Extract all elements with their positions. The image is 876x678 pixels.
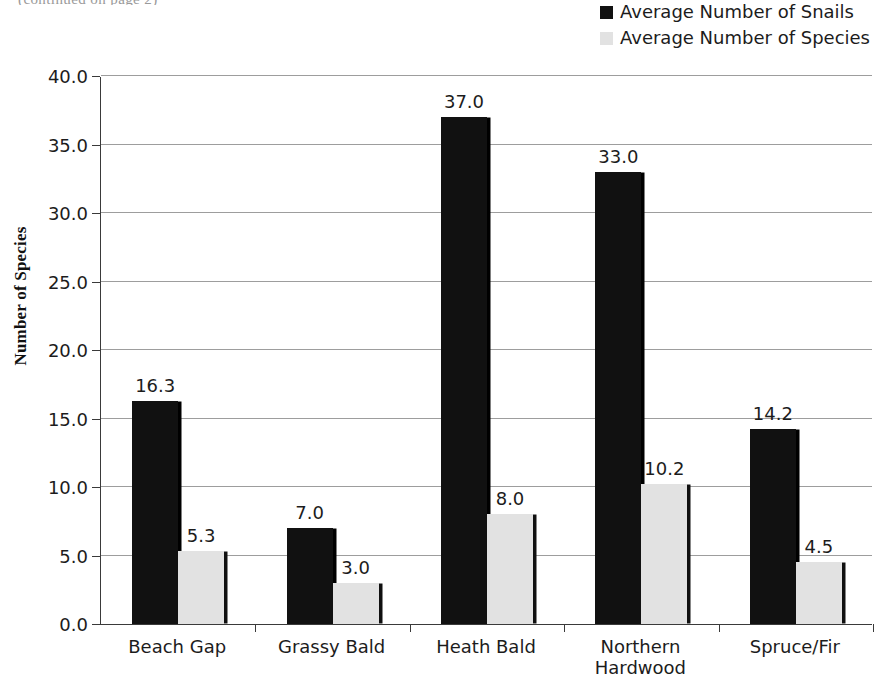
x-tick-mark — [564, 624, 565, 632]
y-tick-mark — [92, 419, 100, 420]
clipped-header-text: (continued on page 2) — [18, 0, 238, 5]
x-category-label: Beach Gap — [128, 636, 226, 657]
bar-value-label: 3.0 — [341, 558, 370, 578]
bar-value-label: 10.2 — [644, 459, 684, 479]
legend-swatch-species-icon — [600, 32, 613, 45]
bar-value-label: 14.2 — [753, 404, 793, 424]
bar-average-number-of-snails-2: 37.0 — [441, 117, 487, 624]
y-tick-mark — [92, 282, 100, 283]
bar-average-number-of-snails-1: 7.0 — [287, 528, 333, 624]
chart-legend: Average Number of Snails Average Number … — [600, 2, 870, 48]
legend-swatch-snails-icon — [600, 6, 613, 19]
legend-item-species: Average Number of Species — [600, 28, 870, 48]
bar-value-label: 33.0 — [598, 147, 638, 167]
bar-average-number-of-species-3: 10.2 — [641, 484, 687, 624]
bar-value-label: 8.0 — [496, 489, 525, 509]
gridline — [101, 75, 872, 76]
bar-average-number-of-species-1: 3.0 — [333, 583, 379, 624]
y-axis-labels: 0.05.010.015.020.025.030.035.040.0 — [0, 77, 100, 625]
y-tick-label: 10.0 — [48, 479, 88, 497]
y-tick-mark — [92, 487, 100, 488]
y-tick-mark — [92, 556, 100, 557]
y-tick-mark — [92, 624, 100, 625]
x-tick-mark — [410, 624, 411, 632]
bar-value-label: 37.0 — [444, 92, 484, 112]
x-category-label: Northern Hardwood — [595, 636, 686, 678]
y-tick-label: 35.0 — [48, 137, 88, 155]
bar-value-label: 4.5 — [804, 537, 833, 557]
x-tick-mark — [255, 624, 256, 632]
x-tick-mark — [719, 624, 720, 632]
y-tick-label: 30.0 — [48, 205, 88, 223]
bar-average-number-of-snails-4: 14.2 — [750, 429, 796, 624]
bar-average-number-of-snails-3: 33.0 — [595, 172, 641, 624]
bar-value-label: 7.0 — [295, 503, 324, 523]
bar-average-number-of-species-0: 5.3 — [178, 551, 224, 624]
legend-item-snails: Average Number of Snails — [600, 2, 854, 22]
legend-label-snails: Average Number of Snails — [620, 2, 854, 22]
x-category-label: Heath Bald — [436, 636, 536, 657]
bar-average-number-of-snails-0: 16.3 — [132, 401, 178, 624]
x-category-label: Spruce/Fir — [750, 636, 840, 657]
y-tick-mark — [92, 76, 100, 77]
chart-plot-area: 16.35.37.03.037.08.033.010.214.24.5 — [100, 77, 872, 625]
bar-value-label: 16.3 — [135, 376, 175, 396]
y-tick-label: 40.0 — [48, 68, 88, 86]
x-tick-mark — [873, 624, 874, 632]
y-tick-mark — [92, 145, 100, 146]
y-tick-label: 5.0 — [59, 548, 88, 566]
y-tick-label: 25.0 — [48, 274, 88, 292]
legend-label-species: Average Number of Species — [620, 28, 870, 48]
x-axis-labels: Beach GapGrassy BaldHeath BaldNorthern H… — [100, 636, 872, 678]
y-tick-mark — [92, 213, 100, 214]
bar-average-number-of-species-4: 4.5 — [796, 562, 842, 624]
x-category-label: Grassy Bald — [278, 636, 385, 657]
y-tick-label: 15.0 — [48, 411, 88, 429]
y-tick-mark — [92, 350, 100, 351]
y-tick-label: 20.0 — [48, 342, 88, 360]
bar-value-label: 5.3 — [187, 526, 216, 546]
plot-surface: 16.35.37.03.037.08.033.010.214.24.5 — [100, 77, 872, 625]
bar-average-number-of-species-2: 8.0 — [487, 514, 533, 624]
y-tick-label: 0.0 — [59, 616, 88, 634]
